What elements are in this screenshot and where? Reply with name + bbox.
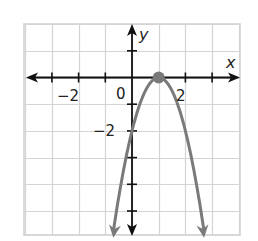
vertex-point — [153, 72, 165, 84]
coordinate-plane: x y −2 0 2 −2 — [0, 0, 258, 241]
x-tick-label-neg2: −2 — [57, 87, 79, 105]
parabola-curve — [113, 78, 204, 232]
x-axis-label: x — [225, 53, 236, 72]
x-tick-label-zero: 0 — [116, 85, 126, 103]
y-axis-label: y — [138, 25, 149, 44]
y-tick-label-neg2: −2 — [93, 122, 115, 140]
x-tick-label-pos2: 2 — [176, 87, 186, 105]
